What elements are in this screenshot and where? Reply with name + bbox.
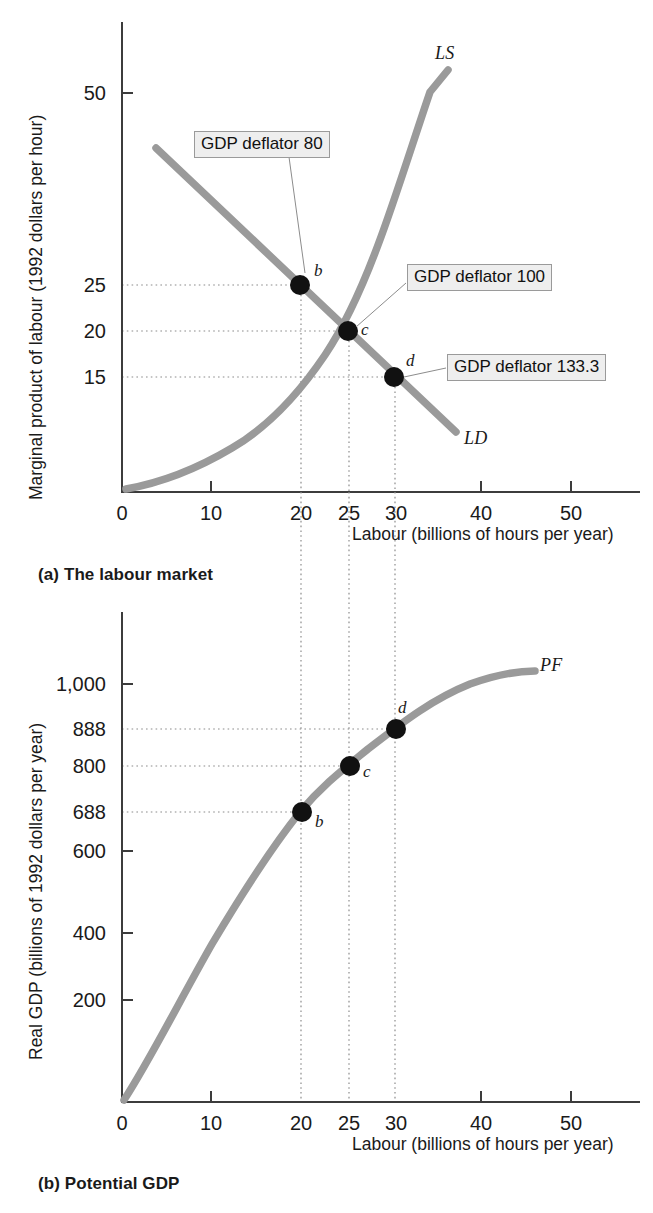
panel-a-y-tick-15: 15 (60, 366, 106, 389)
panel-b-y-tick-600: 600 (40, 840, 106, 863)
point-d-a (384, 367, 404, 387)
figure-graphics: .ax { stroke:#3c3c3c; stroke-width:2; fi… (0, 0, 653, 1213)
point-label-c-a: c (361, 320, 369, 340)
point-c-a (338, 321, 358, 341)
panel-a-x-tick-50: 50 (560, 502, 582, 525)
panel-a-y-tick-50: 50 (60, 82, 106, 105)
panel-a-y-tick-25: 25 (60, 274, 106, 297)
panel-b-x-tick-40: 40 (470, 1112, 492, 1135)
panel-b-x-tick-10: 10 (200, 1112, 222, 1135)
panel-b-x-tick-25: 25 (338, 1112, 360, 1135)
panel-b-graphics (122, 612, 640, 1102)
panel-a-x-axis-title: Labour (billions of hours per year) (352, 524, 614, 545)
panel-b-x-axis-title: Labour (billions of hours per year) (352, 1134, 614, 1155)
panel-a-guides (122, 285, 395, 492)
panel-a-x-tick-40: 40 (470, 502, 492, 525)
panel-b-y-tick-400: 400 (40, 922, 106, 945)
panel-a-graphics (122, 22, 640, 492)
curve-pf (124, 671, 535, 1100)
panel-a-x-tick-20: 20 (290, 502, 312, 525)
panel-b-x-tick-50: 50 (560, 1112, 582, 1135)
callout-gdp-deflator-80: GDP deflator 80 (194, 131, 330, 158)
curve-label-pf: PF (540, 655, 563, 676)
point-b-a (290, 275, 310, 295)
point-label-c-b: c (363, 762, 371, 782)
panel-b-y-tick-800: 800 (40, 755, 106, 778)
point-label-b-a: b (314, 261, 323, 281)
panel-a-x-tick-30: 30 (385, 502, 407, 525)
panel-a-x-tick-0: 0 (116, 502, 127, 525)
point-d-b (386, 719, 406, 739)
callout-gdp-deflator-133-3: GDP deflator 133.3 (447, 354, 606, 381)
panel-a-y-tick-20: 20 (60, 320, 106, 343)
panel-a-x-tick-25: 25 (338, 502, 360, 525)
point-b-b (292, 802, 312, 822)
panel-b-y-tick-688: 688 (40, 801, 106, 824)
panel-a-axes (122, 22, 640, 492)
panel-b-x-ticks (211, 1091, 571, 1102)
panel-b-y-tick-200: 200 (40, 989, 106, 1012)
panel-a-x-tick-10: 10 (200, 502, 222, 525)
point-label-d-a: d (406, 351, 415, 371)
caption-panel-b: (b) Potential GDP (38, 1174, 179, 1194)
curve-label-ld: LD (464, 428, 488, 449)
panel-b-axes (122, 612, 640, 1102)
curve-label-ls: LS (435, 43, 455, 64)
point-label-b-b: b (315, 812, 324, 832)
panel-a-x-ticks (211, 481, 571, 492)
panel-b-y-tick-1000: 1,000 (40, 673, 106, 696)
panel-a-y-axis-title: Marginal product of labour (1992 dollars… (26, 115, 47, 500)
point-c-b (340, 756, 360, 776)
panel-b-x-tick-0: 0 (116, 1112, 127, 1135)
panel-b-y-ticks (122, 684, 133, 1000)
panel-b-x-tick-20: 20 (290, 1112, 312, 1135)
callout-gdp-deflator-100: GDP deflator 100 (407, 264, 552, 291)
figure-root: .ax { stroke:#3c3c3c; stroke-width:2; fi… (0, 0, 653, 1213)
leader-deflator-80 (289, 157, 305, 273)
point-label-d-b: d (398, 698, 407, 718)
caption-panel-a: (a) The labour market (38, 565, 213, 585)
panel-b-y-tick-888: 888 (40, 718, 106, 741)
panel-b-x-tick-30: 30 (385, 1112, 407, 1135)
